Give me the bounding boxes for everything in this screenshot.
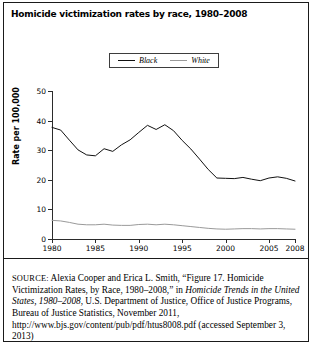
figure-container: Homicide victimization rates by race, 19…: [3, 2, 309, 342]
x-tick-label: 1985: [86, 244, 105, 253]
y-axis-title: Rate per 100,000: [12, 87, 21, 165]
y-tick-label: 40: [36, 116, 46, 125]
y-tick-label: 50: [36, 87, 46, 96]
x-tick-label: 1980: [42, 244, 61, 253]
y-tick-label: 20: [36, 175, 46, 184]
source-label: SOURCE:: [12, 274, 49, 283]
x-tick-label: 2000: [216, 244, 235, 253]
x-tick-mark: [295, 239, 296, 243]
x-tick-label: 1995: [173, 244, 192, 253]
y-tick-label: 30: [36, 146, 46, 155]
legend-label-white: White: [191, 56, 210, 65]
x-tick-label: 1990: [129, 244, 148, 253]
legend-item-white: White: [170, 56, 210, 65]
series-line-white: [52, 220, 295, 229]
y-tick-label: 0: [41, 235, 46, 244]
legend-item-black: Black: [118, 56, 157, 65]
series-line-black: [52, 125, 295, 181]
source-citation: SOURCE: Alexia Cooper and Erica L. Smith…: [12, 273, 304, 343]
plot-area: 01020304050 1980198519901995200020052008: [52, 91, 294, 239]
legend-label-black: Black: [139, 56, 157, 65]
y-tick-label: 10: [36, 205, 46, 214]
page-title: Homicide victimization rates by race, 19…: [11, 8, 247, 19]
x-tick-label: 2008: [285, 244, 304, 253]
figure-title-bar: Homicide victimization rates by race, 19…: [4, 3, 308, 27]
legend-line-swatch-black-icon: [118, 60, 135, 61]
chart-series-group: [52, 91, 295, 240]
legend-line-swatch-white-icon: [170, 60, 187, 61]
chart-legend: Black White: [109, 53, 219, 68]
x-tick-label: 2005: [259, 244, 278, 253]
source-divider: [4, 258, 308, 259]
